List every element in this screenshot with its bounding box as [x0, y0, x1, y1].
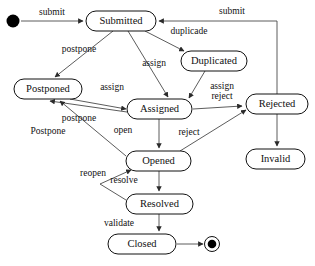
- state-node-postponed[interactable]: Postponed: [14, 79, 82, 99]
- transition-label-t1: submit: [39, 7, 65, 17]
- state-label-postponed: Postponed: [26, 83, 71, 94]
- state-node-opened[interactable]: Opened: [126, 151, 191, 171]
- transition-label-t2: duplicade: [171, 26, 208, 36]
- state-label-resolved: Resolved: [140, 198, 180, 209]
- state-node-resolved[interactable]: Resolved: [126, 194, 193, 214]
- state-label-rejected: Rejected: [259, 98, 296, 109]
- state-diagram-canvas: SubmittedDuplicatedPostponedAssignedReje…: [0, 0, 315, 266]
- state-label-closed: Closed: [127, 238, 157, 249]
- state-diagram-svg: SubmittedDuplicatedPostponedAssignedReje…: [0, 0, 315, 266]
- transition-label-t16: validate: [104, 218, 134, 228]
- state-label-submitted: Submitted: [99, 15, 143, 26]
- initial-state-node: [7, 15, 20, 28]
- state-label-duplicated: Duplicated: [191, 55, 238, 66]
- state-node-assigned[interactable]: Assigned: [127, 99, 192, 119]
- transition-label-t15: reopen: [80, 168, 106, 178]
- transition-label-t10: Postpone: [31, 126, 66, 136]
- transition-label-t9: open: [114, 125, 133, 135]
- transition-label-t11: reject: [178, 127, 199, 137]
- transition-label-t13: submit: [219, 6, 245, 16]
- transition-assigned-to-rejected: [193, 106, 242, 109]
- final-state-node: [208, 240, 217, 249]
- transition-label-t6: assign: [100, 82, 124, 92]
- state-label-assigned: Assigned: [140, 103, 180, 114]
- state-node-invalid[interactable]: Invalid: [246, 149, 305, 169]
- transition-label-t8: reject: [211, 91, 232, 101]
- transition-label-t14: resolve: [110, 175, 137, 185]
- transition-label-t5: assign: [210, 81, 234, 91]
- state-node-submitted[interactable]: Submitted: [86, 11, 156, 31]
- state-node-closed[interactable]: Closed: [108, 234, 176, 254]
- state-node-rejected[interactable]: Rejected: [246, 94, 308, 114]
- state-label-invalid: Invalid: [261, 153, 291, 164]
- transition-duplicated-to-assigned: [189, 71, 205, 98]
- transition-label-t7: postpone: [62, 113, 96, 123]
- transition-label-t4: assign: [142, 58, 166, 68]
- state-node-duplicated[interactable]: Duplicated: [181, 51, 247, 71]
- transition-label-t3: postpone: [62, 44, 96, 54]
- state-label-opened: Opened: [142, 155, 175, 166]
